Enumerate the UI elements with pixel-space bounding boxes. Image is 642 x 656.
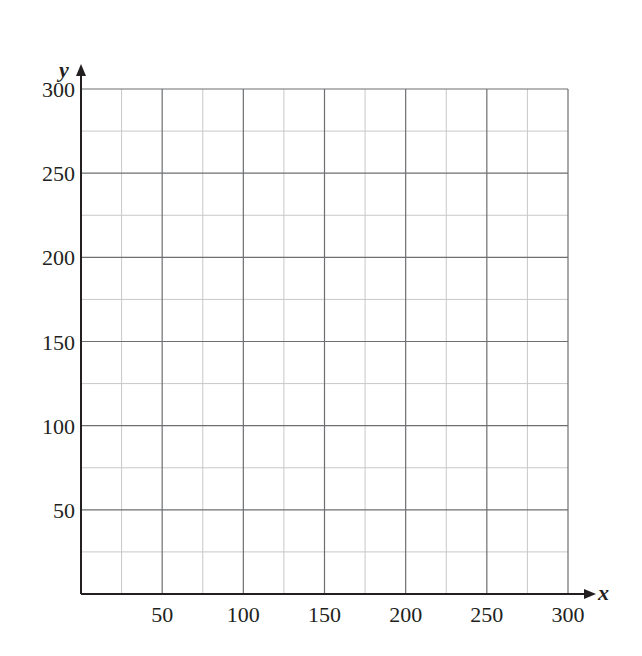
x-tick-label: 200 xyxy=(389,602,422,627)
y-tick-label: 100 xyxy=(42,414,75,439)
y-tick-label: 200 xyxy=(42,245,75,270)
x-tick-label: 100 xyxy=(227,602,260,627)
x-tick-label: 250 xyxy=(470,602,503,627)
y-tick-label: 250 xyxy=(42,161,75,186)
y-axis-arrow-icon xyxy=(76,64,86,76)
x-axis-label: x xyxy=(597,580,609,605)
x-tick-labels: 50100150200250300 xyxy=(151,602,584,627)
y-tick-label: 50 xyxy=(53,498,75,523)
x-axis-arrow-icon xyxy=(584,589,596,599)
x-tick-label: 50 xyxy=(151,602,173,627)
x-tick-label: 150 xyxy=(308,602,341,627)
major-grid xyxy=(81,89,568,594)
x-tick-label: 300 xyxy=(552,602,585,627)
blank-grid-chart: 50100150200250300 50100150200250300 x y xyxy=(0,0,642,656)
axes xyxy=(76,64,596,599)
y-tick-label: 150 xyxy=(42,330,75,355)
y-tick-labels: 50100150200250300 xyxy=(42,77,75,523)
